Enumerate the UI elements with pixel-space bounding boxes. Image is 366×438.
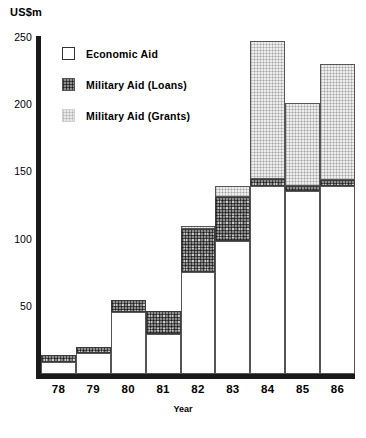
x-axis-tick-78: 78 (41, 383, 76, 395)
legend-item-loans: Military Aid (Loans) (62, 69, 190, 100)
bar-segment-86-economic (320, 186, 355, 374)
x-axis-tick-80: 80 (111, 383, 146, 395)
legend-item-economic: Economic Aid (62, 38, 190, 69)
bar-86 (320, 38, 355, 374)
bar-segment-83-grants (215, 186, 250, 197)
stacked-bar-chart: US$m 50100150200250 787980818283848586 Y… (0, 0, 366, 438)
x-axis-tick-81: 81 (146, 383, 181, 395)
bar-segment-82-loans (181, 229, 216, 272)
legend-label: Military Aid (Loans) (86, 79, 187, 91)
bar-segment-84-loans (250, 179, 285, 186)
chart-legend: Economic AidMilitary Aid (Loans)Military… (62, 38, 190, 131)
x-axis-tick-85: 85 (285, 383, 320, 395)
bar-segment-79-economic (76, 353, 111, 375)
bar-segment-86-grants (320, 64, 355, 181)
bar-segment-84-economic (250, 186, 285, 374)
bar-segment-85-grants (285, 103, 320, 186)
x-axis-tick-83: 83 (215, 383, 250, 395)
bar-84 (250, 38, 285, 374)
bar-segment-82-economic (181, 272, 216, 374)
bar-segment-81-economic (146, 334, 181, 374)
legend-item-grants: Military Aid (Grants) (62, 100, 190, 131)
bar-83 (215, 38, 250, 374)
bar-segment-85-economic (285, 191, 320, 374)
legend-label: Military Aid (Grants) (86, 110, 190, 122)
bar-segment-85-loans (285, 186, 320, 191)
bar-segment-80-loans (111, 300, 146, 312)
x-axis-tick-82: 82 (181, 383, 216, 395)
bar-segment-83-loans (215, 197, 250, 241)
bar-segment-84-grants (250, 41, 285, 179)
economic-swatch-icon (62, 47, 75, 60)
bar-segment-81-loans (146, 311, 181, 334)
x-axis-tick-84: 84 (250, 383, 285, 395)
x-axis-tick-79: 79 (76, 383, 111, 395)
loans-swatch-icon (62, 78, 75, 91)
bar-segment-82-grants (181, 226, 216, 229)
bar-segment-79-loans (76, 347, 111, 352)
bar-segment-78-economic (41, 362, 76, 374)
bar-segment-86-loans (320, 180, 355, 185)
bar-segment-78-loans (41, 355, 76, 362)
bar-85 (285, 38, 320, 374)
x-axis-title: Year (0, 404, 366, 414)
legend-label: Economic Aid (86, 48, 158, 60)
bar-segment-83-economic (215, 241, 250, 374)
x-axis-tick-86: 86 (320, 383, 355, 395)
bar-segment-80-economic (111, 312, 146, 374)
grants-swatch-icon (62, 109, 75, 122)
